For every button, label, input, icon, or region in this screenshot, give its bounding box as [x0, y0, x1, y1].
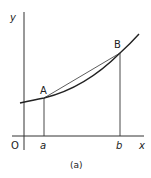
point-a-label: A: [40, 85, 47, 96]
point-b-label: B: [114, 39, 121, 50]
origin-label: O: [11, 140, 19, 151]
y-axis-label: y: [9, 12, 17, 23]
x-tick-a: a: [40, 140, 46, 151]
figure-caption: (a): [70, 160, 83, 170]
chord-ab: [44, 53, 120, 98]
x-tick-b: b: [116, 140, 122, 151]
x-axis-label: x: [138, 140, 145, 151]
curve: [20, 34, 139, 103]
diagram-canvas: y O a b x A B (a): [0, 0, 151, 178]
